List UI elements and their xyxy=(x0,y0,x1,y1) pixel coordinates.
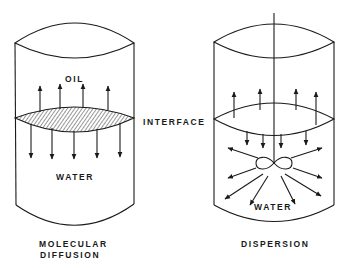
label-oil: OIL xyxy=(65,74,84,84)
left-vessel-top-rim xyxy=(15,23,134,58)
left-vessel xyxy=(15,23,134,225)
left-vessel-bottom xyxy=(16,204,134,225)
label-interface: INTERFACE xyxy=(143,117,206,127)
left-interface-hatched xyxy=(15,107,134,132)
left-title-line1: MOLECULAR xyxy=(39,239,108,249)
left-title-line2: DIFFUSION xyxy=(40,250,100,260)
right-vessel xyxy=(214,13,334,222)
label-water-right: WATER xyxy=(254,202,292,212)
label-water-left: WATER xyxy=(56,172,94,182)
right-title: DISPERSION xyxy=(241,239,309,249)
left-vessel-left-wall xyxy=(15,43,16,205)
diagram-canvas xyxy=(0,0,347,268)
